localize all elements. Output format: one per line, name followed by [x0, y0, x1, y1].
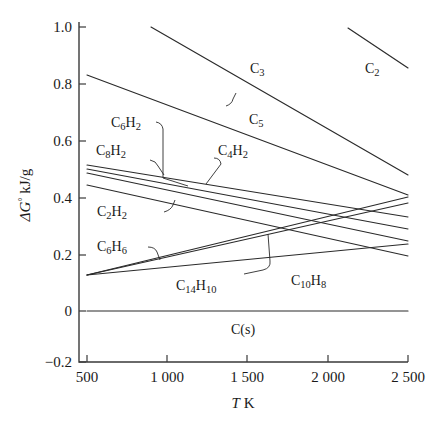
ytick-label--0.2: −0.2: [45, 354, 72, 370]
series-label-c5: C5: [249, 112, 264, 129]
xtick-label-500: 500: [76, 369, 99, 385]
svg-text:T K: T K: [232, 395, 255, 411]
line-c14h10: [87, 244, 408, 275]
xtick-label-1500: 1 500: [230, 369, 264, 385]
leader-c4h2: [206, 158, 221, 184]
line-c4h2: [87, 173, 408, 241]
series-label-c6h6: C6H6: [97, 239, 127, 256]
series-label-c2: C2: [365, 61, 380, 78]
gibbs-energy-chart: 1.0 0.8 0.6 0.4 0.2 0 −0.2 500 1 000 1 5…: [0, 0, 448, 435]
svg-text:ΔG° kJ/g: ΔG° kJ/g: [17, 168, 33, 222]
line-c10h8: [87, 197, 408, 275]
ytick-label-0.2: 0.2: [53, 247, 72, 263]
line-c3: [151, 27, 408, 175]
y-axis-g: G: [17, 201, 33, 212]
xtick-label-1000: 1 000: [150, 369, 184, 385]
series-label-c8h2: C8H2: [96, 143, 126, 160]
ytick-label-0: 0: [65, 303, 73, 319]
series-label-cs: C(s): [231, 322, 255, 338]
series-label-c10h8: C10H8: [291, 273, 326, 290]
leader-c2h2: [164, 200, 175, 212]
leader-c8h2: [150, 160, 164, 175]
ytick-label-0.6: 0.6: [53, 133, 72, 149]
series-label-c6h2: C6H2: [111, 115, 141, 132]
chart-page: 1.0 0.8 0.6 0.4 0.2 0 −0.2 500 1 000 1 5…: [0, 0, 448, 435]
ytick-label-1.0: 1.0: [53, 19, 72, 35]
xtick-label-2000: 2 000: [311, 369, 345, 385]
leader-c10h8: [244, 234, 270, 274]
line-c2: [348, 28, 408, 68]
line-c6h6: [87, 203, 408, 275]
y-axis-units: kJ/g: [17, 168, 33, 194]
y-axis-title: ΔG° kJ/g: [17, 168, 33, 222]
ytick-label-0.4: 0.4: [53, 190, 72, 206]
x-axis-title: T K: [232, 395, 255, 411]
leader-c5: [226, 93, 236, 106]
x-axis-units: K: [244, 395, 255, 411]
series-label-c4h2: C4H2: [218, 143, 248, 160]
series-label-c3: C3: [250, 61, 265, 78]
y-axis-delta: Δ: [17, 212, 33, 222]
xtick-label-2500: 2 500: [391, 369, 425, 385]
series-label-c2h2: C2H2: [97, 204, 127, 221]
series-label-c14h10: C14H10: [176, 278, 216, 295]
line-c5: [87, 75, 408, 195]
ytick-label-0.8: 0.8: [53, 76, 72, 92]
